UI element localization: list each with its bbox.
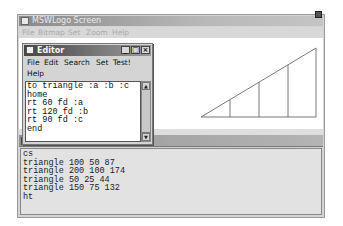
editor-menu-set[interactable]: Set	[96, 57, 108, 68]
menu-bitmap[interactable]: Bitmap	[38, 27, 65, 38]
close-button[interactable]: ×	[141, 46, 150, 54]
editor-menu-test[interactable]: Test!	[113, 57, 131, 68]
editor-window: Editor _ □ × File Edit Search Set Test! …	[22, 43, 153, 145]
editor-app-icon	[26, 46, 34, 54]
editor-menu-bar: File Edit Search Set Test! Help	[24, 57, 151, 79]
window-control-icon[interactable]	[315, 11, 322, 18]
scroll-up-icon[interactable]: ▲	[142, 82, 150, 90]
editor-scrollbar[interactable]: ▲ ▼	[141, 81, 151, 142]
editor-title-bar[interactable]: Editor _ □ ×	[24, 45, 151, 56]
menu-zoom[interactable]: Zoom	[86, 27, 108, 38]
minimize-button[interactable]: _	[121, 46, 130, 54]
editor-menu-search[interactable]: Search	[64, 57, 90, 68]
code-line: end	[26, 125, 140, 134]
editor-menu-file[interactable]: File	[27, 57, 40, 68]
main-window-title: MSWLogo Screen	[32, 16, 101, 26]
code-line: rt 90 fd :c	[26, 116, 140, 125]
scroll-down-icon[interactable]: ▼	[142, 133, 150, 141]
editor-menu-help[interactable]: Help	[27, 68, 44, 79]
editor-menu-edit[interactable]: Edit	[44, 57, 59, 68]
menu-file[interactable]: File	[22, 27, 35, 38]
scroll-thumb[interactable]	[142, 90, 150, 133]
maximize-button[interactable]: □	[131, 46, 140, 54]
main-menu-bar: File Bitmap Set Zoom Help	[19, 27, 323, 38]
history-line[interactable]: ht	[21, 193, 321, 202]
editor-title: Editor	[37, 45, 64, 56]
main-title-bar[interactable]: MSWLogo Screen	[19, 16, 323, 26]
editor-text-area[interactable]: to triangle :a :b :c home rt 60 fd :a rt…	[25, 81, 141, 142]
history-line[interactable]: triangle 150 75 132	[21, 184, 321, 193]
menu-set[interactable]: Set	[68, 27, 80, 38]
logo-app-icon	[21, 17, 29, 25]
commander-history[interactable]: cs triangle 100 50 87 triangle 200 100 1…	[20, 148, 322, 215]
menu-help[interactable]: Help	[112, 27, 129, 38]
